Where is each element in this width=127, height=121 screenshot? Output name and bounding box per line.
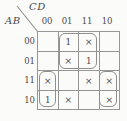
kmap-cell-r2c0: ×	[38, 71, 59, 91]
kmap-cell-r0c3	[100, 32, 120, 52]
kmap-cell-r3c0: 1	[38, 91, 59, 110]
kmap-cell-r2c1	[59, 71, 80, 91]
kmap-cell-r0c2: ×	[79, 32, 100, 52]
col-header-10: 10	[97, 16, 117, 26]
row-header-00: 00	[12, 32, 35, 51]
kmap-cell-r3c2	[79, 91, 100, 110]
kmap-cell-r2c3: ×	[100, 71, 120, 91]
kmap-cell-r0c1: 1	[59, 32, 80, 52]
row-variable-label: AB	[5, 15, 21, 26]
kmap-cell-r1c3	[100, 52, 120, 72]
col-header-00: 00	[37, 16, 57, 26]
kmap-cell-r1c0	[38, 52, 59, 72]
col-header-01: 01	[57, 16, 77, 26]
row-header-10: 10	[12, 91, 35, 110]
kmap-cell-r1c2: 1	[79, 52, 100, 72]
kmap-cell-r0c0	[38, 32, 59, 52]
col-header-11: 11	[77, 16, 97, 26]
kmap-cell-r3c3: ×	[100, 91, 120, 110]
kmap-cell-r2c2: ×	[79, 71, 100, 91]
kmap-cell-r1c1: ×	[59, 52, 80, 72]
karnaugh-map-figure: CD AB 00 01 11 10 00 01 11 10 1 × × 1 × …	[0, 0, 127, 121]
row-header-01: 01	[12, 52, 35, 71]
kmap-cell-r3c1: ×	[59, 91, 80, 110]
column-variable-label: CD	[29, 1, 46, 12]
kmap-grid: 1 × × 1 × × × 1 × ×	[37, 31, 120, 110]
row-header-11: 11	[12, 71, 35, 90]
